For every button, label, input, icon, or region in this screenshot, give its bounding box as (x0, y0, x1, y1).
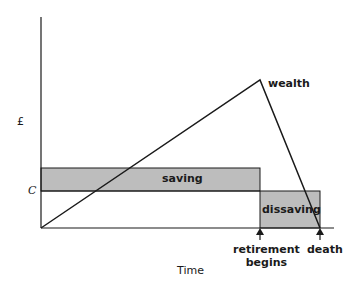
retirement-label-line1: retirement (233, 243, 300, 256)
wealth-label: wealth (268, 77, 310, 90)
saving-label: saving (162, 172, 203, 185)
dissaving-label: dissaving (262, 203, 321, 216)
y-axis-label: £ (17, 115, 24, 128)
death-arrow-icon (316, 228, 324, 240)
saving-area (41, 168, 260, 191)
retirement-arrow-icon (256, 228, 264, 240)
life-cycle-diagram (0, 0, 355, 293)
death-label: death (307, 243, 343, 256)
consumption-label: C (28, 184, 36, 197)
x-axis-label: Time (177, 264, 204, 277)
retirement-label-line2: begins (233, 256, 300, 269)
retirement-label: retirement begins (233, 243, 300, 269)
